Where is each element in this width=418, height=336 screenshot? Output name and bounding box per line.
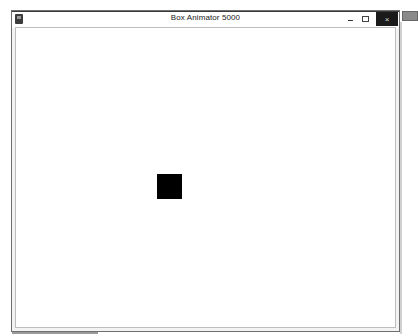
window-title: Box Animator 5000 [12, 13, 399, 22]
background-window-tab[interactable] [402, 11, 418, 21]
maximize-icon [362, 16, 369, 22]
animated-box [157, 174, 182, 199]
minimize-icon [348, 20, 353, 21]
taskbar-accent [12, 332, 98, 334]
minimize-button[interactable] [343, 12, 357, 26]
close-icon: × [385, 15, 390, 24]
app-window: Box Animator 5000 × [11, 10, 400, 332]
desktop-edge [400, 22, 402, 334]
animation-canvas[interactable] [15, 27, 396, 328]
title-bar[interactable]: Box Animator 5000 × [12, 11, 399, 28]
maximize-button[interactable] [358, 12, 372, 26]
close-button[interactable]: × [376, 12, 398, 26]
